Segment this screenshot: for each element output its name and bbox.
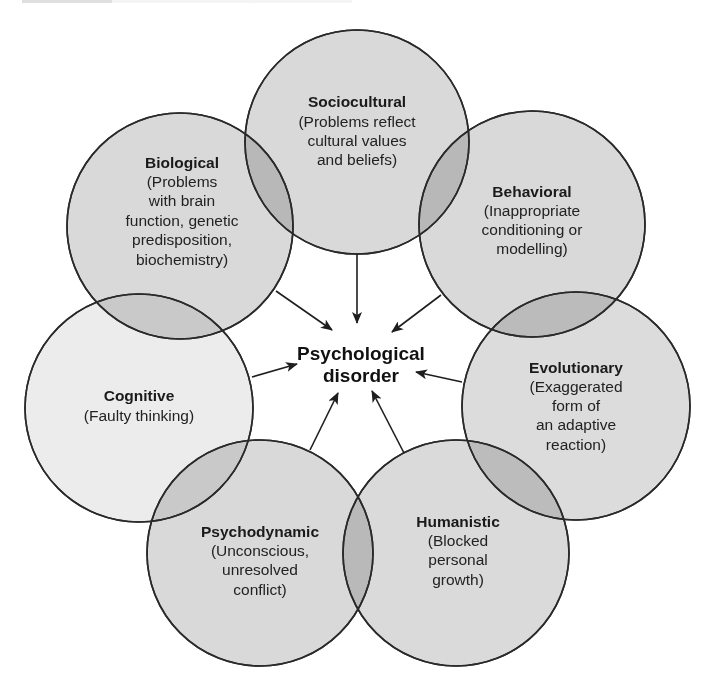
arrow-from-biological	[276, 291, 332, 330]
biological-desc-line: function, genetic	[126, 212, 239, 229]
evolutionary-desc-line: form of	[552, 397, 601, 414]
biological-desc-line: (Problems	[147, 173, 218, 190]
biological-desc-line: with brain	[148, 192, 215, 209]
cognitive-desc-line: (Faulty thinking)	[84, 407, 194, 424]
arrow-from-evolutionary	[416, 372, 462, 382]
sociocultural-title: Sociocultural	[308, 93, 406, 110]
biological-title: Biological	[145, 154, 219, 171]
behavioral-title: Behavioral	[492, 183, 571, 200]
psychodynamic-title: Psychodynamic	[201, 523, 319, 540]
behavioral-desc-line: conditioning or	[482, 221, 583, 238]
center-label-line1: Psychological	[297, 343, 425, 364]
sociocultural-desc-line: and beliefs)	[317, 151, 397, 168]
biological-desc-line: biochemistry)	[136, 251, 228, 268]
psychodynamic-desc-line: unresolved	[222, 561, 298, 578]
evolutionary-desc-line: an adaptive	[536, 416, 616, 433]
psychodynamic-desc-line: (Unconscious,	[211, 542, 309, 559]
evolutionary-desc-line: (Exaggerated	[529, 378, 622, 395]
sociocultural-desc-line: cultural values	[307, 132, 406, 149]
biological-desc-line: predisposition,	[132, 231, 232, 248]
cognitive-title: Cognitive	[104, 387, 175, 404]
arrow-from-psychodynamic	[310, 393, 338, 450]
humanistic-desc-line: (Blocked	[428, 532, 488, 549]
behavioral-desc-line: (Inappropriate	[484, 202, 581, 219]
evolutionary-desc-line: reaction)	[546, 436, 606, 453]
evolutionary-title: Evolutionary	[529, 359, 623, 376]
humanistic-desc-line: personal	[428, 551, 487, 568]
center-label: Psychological disorder	[297, 343, 425, 386]
psychodynamic-desc-line: conflict)	[233, 581, 286, 598]
perspectives-diagram: Psychological disorder Sociocultural (Pr…	[0, 0, 702, 691]
behavioral-desc-line: modelling)	[496, 240, 568, 257]
humanistic-title: Humanistic	[416, 513, 500, 530]
humanistic-desc-line: growth)	[432, 571, 484, 588]
center-label-line2: disorder	[323, 365, 400, 386]
arrow-from-humanistic	[372, 391, 404, 453]
arrow-from-behavioral	[392, 295, 441, 332]
arrow-from-cognitive	[252, 364, 297, 377]
sociocultural-desc-line: (Problems reflect	[298, 113, 416, 130]
